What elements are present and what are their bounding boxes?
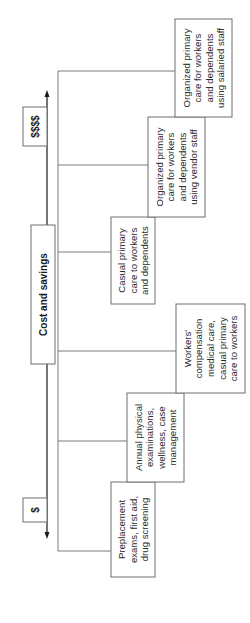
- item-text-line: management: [167, 409, 178, 465]
- low-cost-label: $: [30, 507, 41, 513]
- item-text-line: and dependents: [139, 226, 150, 295]
- root-label: Cost and savings: [38, 253, 49, 336]
- item-text-line: and dependents: [204, 33, 215, 102]
- item-text-line: Annual physical: [133, 404, 144, 471]
- item-text-line: casual primary: [217, 317, 228, 380]
- item-text-line: and dependents: [177, 132, 188, 201]
- cost-savings-diagram: $$$$ $ Cost and savings Preplacementexam…: [0, 0, 250, 623]
- item-boxes: Preplacementexams, first aid,drug screen…: [111, 19, 245, 577]
- item-text-line: Casual primary: [116, 228, 127, 293]
- item-text-line: using vendor staff: [188, 129, 199, 205]
- item-node-0: Preplacementexams, first aid,drug screen…: [111, 482, 155, 577]
- item-text-line: care for workers: [192, 33, 203, 102]
- item-text-line: care to workers: [228, 316, 239, 382]
- item-text-line: using salaried staff: [215, 28, 226, 108]
- item-text-line: medical care,: [205, 320, 216, 377]
- low-cost-label-box: $: [23, 498, 47, 522]
- item-text-line: care for workers: [165, 132, 176, 201]
- high-cost-label-box: $$$$: [23, 107, 47, 146]
- item-node-4: Organized primarycare for workersand dep…: [148, 117, 205, 217]
- item-text-line: compensation: [193, 319, 204, 379]
- item-text-line: drug screening: [139, 498, 150, 561]
- arrow-down-icon: [45, 532, 50, 539]
- item-text-line: examinations,: [144, 408, 155, 467]
- item-text-line: exams, first aid,: [128, 496, 139, 563]
- item-node-5: Organized primarycare for workersand dep…: [175, 19, 232, 117]
- item-node-2: Workers'compensationmedical care,casual …: [176, 304, 245, 393]
- item-text-line: Workers': [182, 330, 193, 368]
- item-node-3: Casual primarycare to workersand depende…: [111, 217, 155, 304]
- item-text-line: care to workers: [128, 228, 139, 294]
- item-text-line: Organized primary: [154, 127, 165, 206]
- arrow-up-icon: [45, 90, 50, 97]
- item-text-line: Organized primary: [181, 28, 192, 107]
- root-node: Cost and savings: [31, 225, 55, 364]
- item-text-line: Preplacement: [116, 500, 127, 560]
- item-text-line: wellness, case: [156, 406, 167, 469]
- high-cost-label: $$$$: [30, 115, 41, 138]
- item-node-1: Annual physicalexaminations,wellness, ca…: [127, 393, 184, 482]
